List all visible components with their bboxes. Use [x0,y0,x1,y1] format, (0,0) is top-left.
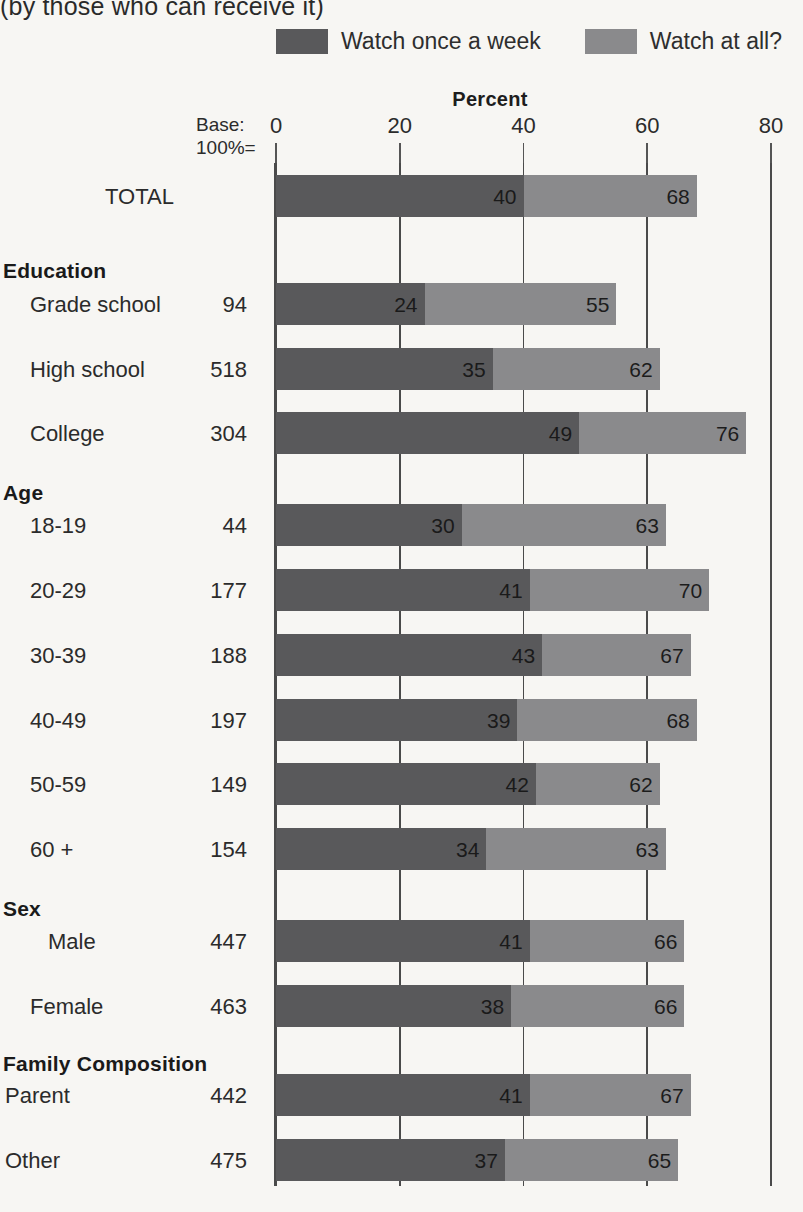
legend-label: Watch at all? [650,28,782,55]
x-axis-tick-label: 80 [741,113,801,139]
table-row: 2455 [276,283,616,325]
bar-segment-watch-at-all: 67 [542,634,691,676]
bar-segment-watch-once-a-week: 30 [276,504,462,546]
table-row: 4976 [276,412,746,454]
bar-value-label: 40 [493,186,516,207]
table-row: 4068 [276,175,697,217]
bar-segment-watch-at-all: 67 [530,1074,691,1116]
row-label: Female [30,994,103,1020]
row-label: Male [48,929,96,955]
row-base-value: 447 [137,929,247,955]
table-row: 3765 [276,1139,678,1181]
row-label: 20-29 [30,578,86,604]
chart-legend: Watch once a weekWatch at all? [276,24,796,58]
x-axis-tick-mark [523,143,525,163]
bar-segment-watch-once-a-week: 37 [276,1139,505,1181]
row-base-value: 304 [137,421,247,447]
bar-segment-watch-once-a-week: 41 [276,569,530,611]
x-axis-tick-mark [275,143,277,163]
bar-value-label: 67 [660,1085,683,1106]
bar-value-label: 68 [666,186,689,207]
x-axis-tick-label: 20 [370,113,430,139]
row-label: 18-19 [30,513,86,539]
bar-value-label: 68 [666,710,689,731]
axis-title-percent: Percent [430,88,550,111]
bar-value-label: 42 [506,774,529,795]
bar-segment-watch-once-a-week: 39 [276,699,517,741]
table-row: 3063 [276,504,666,546]
row-base-value: 518 [137,357,247,383]
table-row: 3968 [276,699,697,741]
bar-value-label: 63 [635,515,658,536]
row-label: College [30,421,105,447]
row-base-value: 149 [137,772,247,798]
row-base-value: 154 [137,837,247,863]
bar-segment-watch-at-all: 63 [462,504,666,546]
bar-segment-watch-once-a-week: 35 [276,348,493,390]
x-axis-tick-mark [770,143,772,163]
bar-value-label: 65 [648,1150,671,1171]
row-label: 30-39 [30,643,86,669]
row-base-value: 44 [137,513,247,539]
group-header-family-composition: Family Composition [3,1052,207,1076]
bar-value-label: 55 [586,294,609,315]
bar-value-label: 70 [679,580,702,601]
bar-value-label: 66 [654,931,677,952]
row-base-value: 463 [137,994,247,1020]
bar-segment-watch-at-all: 68 [524,175,697,217]
row-base-value: 177 [137,578,247,604]
legend-label: Watch once a week [341,28,541,55]
bar-segment-watch-at-all: 70 [530,569,709,611]
bar-segment-watch-at-all: 66 [511,985,684,1027]
bar-segment-watch-once-a-week: 40 [276,175,524,217]
bar-value-label: 62 [629,774,652,795]
x-axis-tick-label: 0 [246,113,306,139]
bar-value-label: 43 [512,645,535,666]
row-base-value: 475 [137,1148,247,1174]
group-header-sex: Sex [3,897,41,921]
bar-value-label: 49 [549,423,572,444]
bar-value-label: 66 [654,996,677,1017]
row-label: 60 + [30,837,73,863]
bar-value-label: 39 [487,710,510,731]
bar-segment-watch-at-all: 62 [493,348,660,390]
bar-segment-watch-once-a-week: 41 [276,920,530,962]
table-row: 4367 [276,634,691,676]
row-label: High school [30,357,145,383]
table-row: 3866 [276,985,684,1027]
bar-value-label: 63 [635,839,658,860]
bar-value-label: 35 [462,359,485,380]
bar-segment-watch-once-a-week: 42 [276,763,536,805]
bar-value-label: 38 [481,996,504,1017]
y-axis-spine [274,163,276,1186]
bar-segment-watch-at-all: 68 [517,699,696,741]
bar-segment-watch-once-a-week: 34 [276,828,486,870]
bar-segment-watch-once-a-week: 49 [276,412,579,454]
bar-value-label: 37 [475,1150,498,1171]
x-axis-tick-mark [646,143,648,163]
row-base-value: 94 [137,292,247,318]
x-axis-tick-label: 60 [617,113,677,139]
bar-segment-watch-at-all: 66 [530,920,685,962]
legend-item-1: Watch once a week [276,28,541,55]
bar-value-label: 34 [456,839,479,860]
table-row: 4262 [276,763,660,805]
base-label-line2: 100%= [196,136,270,159]
legend-swatch-dark [276,29,328,54]
gridline [770,163,772,1186]
table-row: 4167 [276,1074,691,1116]
bar-segment-watch-once-a-week: 41 [276,1074,530,1116]
group-header-education: Education [3,259,106,283]
bar-segment-watch-at-all: 65 [505,1139,678,1181]
bar-value-label: 76 [716,423,739,444]
row-base-value: 442 [137,1083,247,1109]
bar-segment-watch-once-a-week: 43 [276,634,542,676]
bar-value-label: 62 [629,359,652,380]
bar-value-label: 41 [499,580,522,601]
legend-swatch-light [585,29,637,54]
row-label: 50-59 [30,772,86,798]
x-axis-tick-label: 40 [494,113,554,139]
row-label: 40-49 [30,708,86,734]
bar-value-label: 24 [394,294,417,315]
bar-segment-watch-at-all: 63 [486,828,665,870]
